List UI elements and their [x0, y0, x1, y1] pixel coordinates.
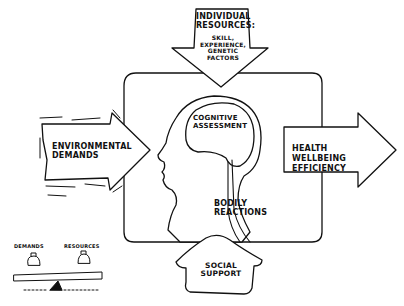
resources-detail-line: FACTORS	[194, 55, 252, 62]
outcome-line: HEALTH	[292, 144, 346, 154]
bodily-reactions-label: BODILY REACTIONS	[214, 200, 267, 218]
support-line: SUPPORT	[196, 270, 246, 278]
environmental-demands-label: ENVIRONMENTAL DEMANDS	[52, 143, 132, 161]
balance-demands-label: DEMANDS	[14, 244, 44, 250]
outcome-line: WELLBEING	[292, 154, 346, 164]
balance-scale	[14, 251, 102, 290]
demands-line: DEMANDS	[52, 152, 132, 161]
cognitive-assessment-label: COGNITIVE ASSESSMENT	[193, 115, 247, 130]
bodily-line: REACTIONS	[214, 209, 267, 218]
cognitive-line: ASSESSMENT	[193, 123, 247, 131]
resources-title: INDIVIDUAL RESOURCES:	[196, 13, 250, 31]
outcome-label: HEALTH WELLBEING EFFICIENCY	[292, 144, 346, 174]
resources-title-line: RESOURCES:	[196, 22, 250, 31]
resources-detail: SKILL, EXPERIENCE, GENETIC FACTORS	[194, 35, 252, 61]
social-support-label: SOCIAL SUPPORT	[196, 262, 246, 279]
balance-resources-label: RESOURCES	[64, 244, 100, 250]
outcome-line: EFFICIENCY	[292, 164, 346, 174]
